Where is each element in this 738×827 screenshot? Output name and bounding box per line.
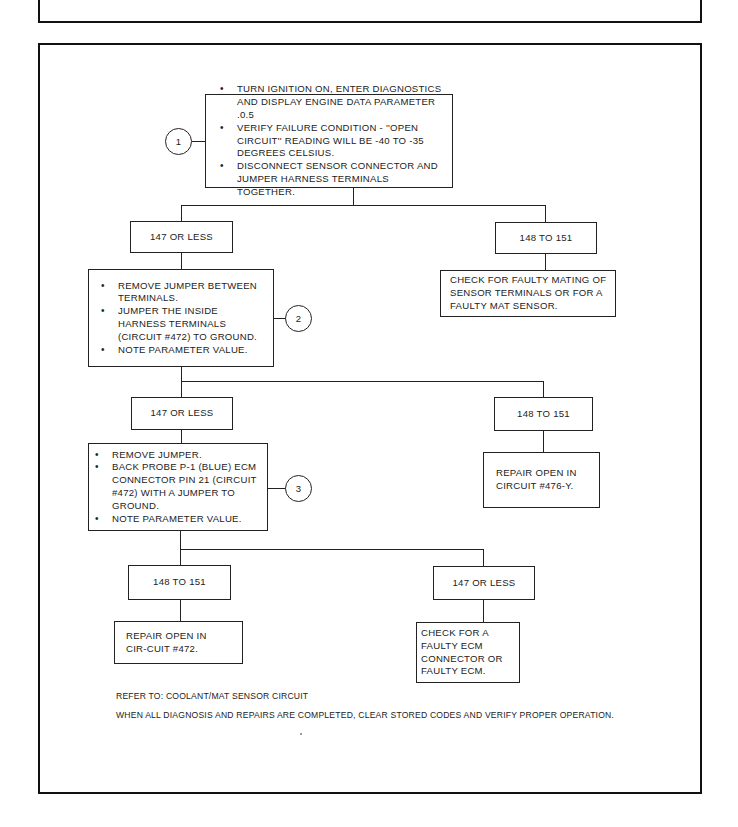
step-1-instruction: TURN IGNITION ON, ENTER DIAGNOSTICS AND … <box>218 83 446 121</box>
branch-2-line <box>181 381 544 382</box>
connector-line <box>483 600 484 622</box>
connector-line <box>181 205 182 222</box>
result-text: CHECK FOR FAULTY MATING OF SENSOR TERMIN… <box>450 274 609 312</box>
connector-line <box>181 381 182 397</box>
condition-label: 147 OR LESS <box>150 231 213 244</box>
step-1-instruction: VERIFY FAILURE CONDITION - ''OPEN CIRCUI… <box>218 122 446 160</box>
step-3-instruction: REMOVE JUMPER. <box>93 449 261 462</box>
condition-label: 147 OR LESS <box>452 577 515 590</box>
condition-label: 148 TO 151 <box>520 232 573 245</box>
step-1-instruction: DISCONNECT SENSOR CONNECTOR AND JUMPER H… <box>218 160 446 198</box>
connector-line <box>181 367 182 382</box>
result-text: CHECK FOR A FAULTY ECM CONNECTOR OR FAUL… <box>421 627 517 678</box>
branch-1-line <box>181 205 546 206</box>
connector-line <box>181 430 182 443</box>
step-3-connector <box>268 488 286 489</box>
condition-label: 147 OR LESS <box>150 407 213 420</box>
condition-box: 148 TO 151 <box>494 397 593 431</box>
step-2-instruction: REMOVE JUMPER BETWEEN TERMINALS. <box>99 280 267 306</box>
condition-label: 148 TO 151 <box>517 408 570 421</box>
condition-box: 147 OR LESS <box>131 397 233 430</box>
connector-line <box>180 600 181 621</box>
step-3-instruction: NOTE PARAMETER VALUE. <box>93 513 261 526</box>
step-2-instruction: NOTE PARAMETER VALUE. <box>99 344 267 357</box>
result-box: REPAIR OPEN IN CIR-CUIT #472. <box>114 621 243 664</box>
result-text: REPAIR OPEN IN CIR-CUIT #472. <box>126 630 224 656</box>
connector-line <box>545 254 546 270</box>
connector-line <box>181 253 182 270</box>
result-text: REPAIR OPEN IN CIRCUIT #476-Y. <box>496 467 593 493</box>
step-3-box: REMOVE JUMPER. BACK PROBE P-1 (BLUE) ECM… <box>88 443 268 531</box>
connector-line <box>543 431 544 452</box>
completion-note: WHEN ALL DIAGNOSIS AND REPAIRS ARE COMPL… <box>116 709 636 721</box>
condition-box: 147 OR LESS <box>130 221 233 253</box>
condition-box: 148 TO 151 <box>128 565 231 600</box>
branch-3-line <box>180 549 484 550</box>
refer-note: REFER TO: COOLANT/MAT SENSOR CIRCUIT <box>116 690 656 702</box>
condition-box: 148 TO 151 <box>495 222 597 254</box>
step-number-1: 1 <box>165 128 192 155</box>
header-frame: OPEN MAT SENSOR CIRCUIT <box>38 0 702 23</box>
step-3-instructions: REMOVE JUMPER. BACK PROBE P-1 (BLUE) ECM… <box>93 449 261 526</box>
step-2-instructions: REMOVE JUMPER BETWEEN TERMINALS. JUMPER … <box>99 280 267 357</box>
connector-line <box>180 549 181 565</box>
result-box: REPAIR OPEN IN CIRCUIT #476-Y. <box>483 452 600 508</box>
condition-label: 148 TO 151 <box>153 576 206 589</box>
step-1-connector <box>192 141 206 142</box>
step-2-instruction: JUMPER THE INSIDE HARNESS TERMINALS (CIR… <box>99 305 267 343</box>
step-1-box: TURN IGNITION ON, ENTER DIAGNOSTICS AND … <box>205 94 453 188</box>
step-number-3: 3 <box>285 475 312 502</box>
connector-line <box>545 205 546 222</box>
step-2-box: REMOVE JUMPER BETWEEN TERMINALS. JUMPER … <box>88 269 274 367</box>
step-1-instructions: TURN IGNITION ON, ENTER DIAGNOSTICS AND … <box>218 83 446 198</box>
result-box: CHECK FOR A FAULTY ECM CONNECTOR OR FAUL… <box>416 622 520 683</box>
connector-line <box>353 188 354 206</box>
connector-line <box>483 549 484 566</box>
step-number-2: 2 <box>285 305 312 332</box>
condition-box: 147 OR LESS <box>433 566 535 600</box>
result-box: CHECK FOR FAULTY MATING OF SENSOR TERMIN… <box>440 270 616 317</box>
step-3-instruction: BACK PROBE P-1 (BLUE) ECM CONNECTOR PIN … <box>93 461 261 512</box>
connector-line <box>543 381 544 397</box>
connector-line <box>180 531 181 550</box>
scan-speck <box>300 733 302 735</box>
